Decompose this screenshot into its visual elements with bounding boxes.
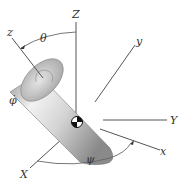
inertial-z-label: Z xyxy=(71,8,80,21)
center-of-mass-icon xyxy=(72,117,83,128)
euler-angle-diagram: Z θ y X z φ̇ Y x ψ xyxy=(0,0,190,180)
body-y-label: y xyxy=(135,35,143,48)
inertial-x-label: X xyxy=(19,168,29,180)
body-y-axis xyxy=(95,45,135,102)
body-x-label: x xyxy=(160,145,167,158)
inertial-y-label: Y xyxy=(170,114,179,127)
cylinder xyxy=(10,51,113,165)
psi-label: ψ xyxy=(86,153,95,166)
phi-dot-label: φ̇ xyxy=(9,94,17,107)
theta-label: θ xyxy=(40,32,47,45)
theta-arc xyxy=(21,32,76,48)
body-z-label: z xyxy=(6,26,13,39)
